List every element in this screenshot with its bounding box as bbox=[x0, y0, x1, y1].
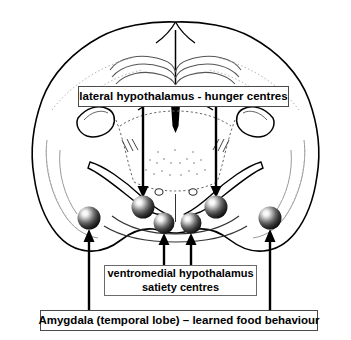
arrow-amygdala-left bbox=[84, 229, 95, 310]
arrow-amygdala-right bbox=[265, 229, 276, 310]
marker-amygdala-left bbox=[78, 207, 101, 230]
label-ventromedial-hypothalamus: ventromedial hypothalamus satiety centre… bbox=[104, 265, 257, 296]
label-amygdala-text: Amygdala (temporal lobe) – learned food … bbox=[38, 313, 319, 327]
arrow-ventromedial-left bbox=[159, 233, 170, 265]
label-ventromedial-hypothalamus-line1: ventromedial hypothalamus bbox=[107, 267, 253, 281]
arrow-ventromedial-right bbox=[186, 233, 197, 265]
marker-amygdala-right bbox=[259, 207, 282, 230]
label-amygdala: Amygdala (temporal lobe) – learned food … bbox=[40, 310, 318, 331]
brain-diagram-figure: lateral hypothalamus - hunger centres ve… bbox=[0, 0, 351, 340]
marker-ventromedial-hypothalamus-right bbox=[181, 213, 202, 234]
marker-lateral-hypothalamus-right bbox=[205, 196, 228, 219]
marker-lateral-hypothalamus-left bbox=[132, 196, 155, 219]
label-ventromedial-hypothalamus-line2: satiety centres bbox=[142, 281, 219, 295]
label-lateral-hypothalamus-text: lateral hypothalamus - hunger centres bbox=[79, 89, 287, 103]
label-lateral-hypothalamus: lateral hypothalamus - hunger centres bbox=[78, 86, 289, 107]
marker-ventromedial-hypothalamus-left bbox=[154, 213, 175, 234]
